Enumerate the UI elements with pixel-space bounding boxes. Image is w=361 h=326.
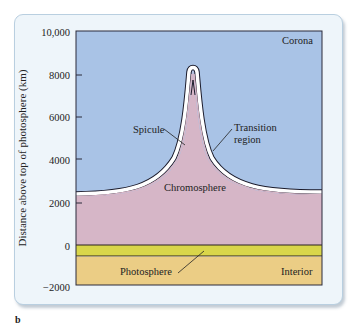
panel-letter: b <box>15 314 21 325</box>
label-transition-2: region <box>234 134 261 146</box>
photosphere-band <box>76 245 322 256</box>
y-tick-2000: 2000 <box>49 198 70 209</box>
label-photosphere: Photosphere <box>120 266 172 278</box>
y-tick-8000: 8000 <box>49 70 70 81</box>
y-tick-10000: 10,000 <box>41 27 70 38</box>
y-tick-neg2000: −2000 <box>43 282 70 293</box>
y-axis-label: Distance above top of photosphere (km) <box>16 70 28 247</box>
y-tick-4000: 4000 <box>49 155 70 166</box>
y-tick-6000: 6000 <box>49 112 70 123</box>
y-tick-0: 0 <box>65 241 70 252</box>
label-interior: Interior <box>281 266 313 278</box>
label-spicule: Spicule <box>133 124 165 136</box>
label-corona: Corona <box>282 35 313 47</box>
label-chromosphere: Chromosphere <box>164 182 226 194</box>
label-transition-1: Transition <box>234 122 277 134</box>
